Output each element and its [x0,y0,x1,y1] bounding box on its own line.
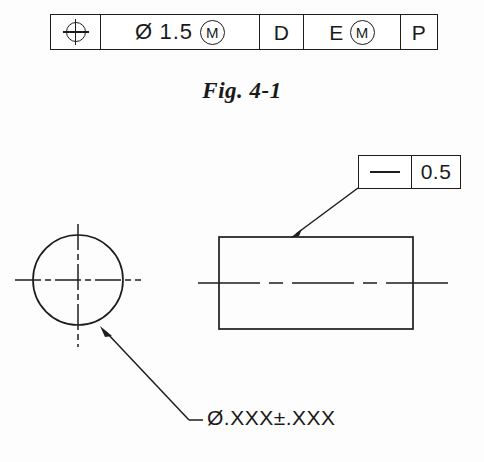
diameter-leader-arrowhead [100,326,112,337]
diameter-leader-line [106,332,189,420]
diameter-dimension-note: Ø.XXX±.XXX [207,406,336,430]
drawing-views [0,0,484,462]
figure-page: Ø 1.5 M D E M P Fig. 4-1 0.5 [0,0,484,462]
straightness-leader-line [296,188,358,234]
